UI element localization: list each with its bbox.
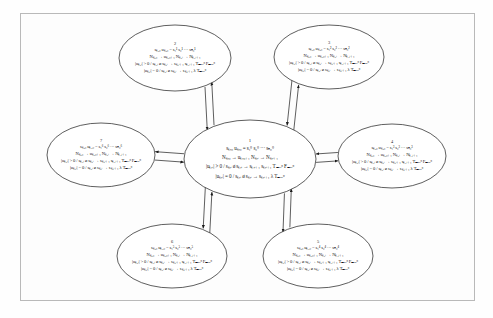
arrow — [294, 85, 299, 131]
ellipse-node-4[interactable] — [338, 124, 446, 188]
ellipse-node-5[interactable] — [263, 224, 373, 288]
figure-canvas: 1sₖ,₀ uₖ,₀ = s₁⁰ s₂⁰ ··· sₙ₀⁰Nₖ,₀ → uₖ,₀… — [0, 0, 493, 318]
arrow — [283, 193, 284, 232]
ellipse-node-3[interactable] — [274, 25, 384, 89]
ellipse-node-6[interactable] — [117, 224, 227, 288]
node-layer — [47, 25, 446, 288]
edge-1-6[interactable] — [203, 187, 212, 234]
ellipse-node-2[interactable] — [119, 25, 231, 91]
arrow — [316, 161, 338, 163]
arrow — [205, 87, 207, 130]
diagram-svg — [0, 0, 493, 318]
arrow — [290, 189, 291, 228]
edge-1-2[interactable] — [205, 82, 214, 130]
arrow — [210, 192, 212, 234]
arrow — [212, 82, 214, 125]
ellipse-node-7[interactable] — [47, 123, 155, 187]
ellipse-node-1[interactable] — [184, 120, 316, 198]
arrow — [287, 80, 292, 126]
edge-1-5[interactable] — [283, 189, 291, 233]
edge-1-4[interactable] — [316, 152, 338, 162]
edge-1-3[interactable] — [287, 80, 299, 131]
arrow — [316, 152, 338, 154]
arrow — [155, 160, 184, 162]
edge-1-7[interactable] — [155, 152, 184, 162]
arrow — [155, 152, 184, 154]
arrow — [203, 187, 205, 229]
